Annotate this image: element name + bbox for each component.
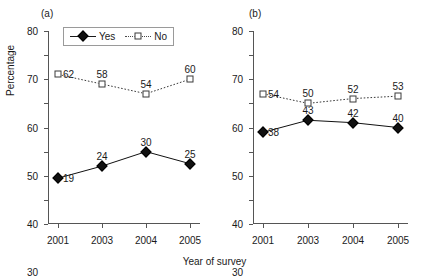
legend-entry-no[interactable]: No: [125, 31, 167, 42]
legend-a: Yes No: [63, 27, 174, 46]
y-tick-label: 50: [232, 170, 243, 181]
panel-a-label: (a): [41, 8, 53, 19]
data-point-label: 53: [392, 81, 403, 92]
y-tick-label: 80: [27, 26, 38, 37]
data-point-marker-unlikely[interactable]: [260, 90, 267, 97]
x-tick-mark: 2005: [398, 224, 399, 228]
y-tick-label: 40: [232, 219, 243, 230]
series-line-yes: [58, 152, 190, 179]
data-point-marker-no[interactable]: [143, 90, 150, 97]
data-point-marker-unlikely[interactable]: [350, 95, 357, 102]
legend-label-yes: Yes: [99, 31, 115, 42]
y-tick-label: 80: [232, 26, 243, 37]
data-point-label: 40: [392, 113, 403, 124]
data-point-label: 52: [347, 84, 358, 95]
plot-area-b: 01020304050607080 2001200320042005 38434…: [253, 31, 408, 224]
x-tick-label: 2003: [91, 235, 113, 246]
figure-two-panel-line-charts: (a) Percentage 01020304050607080 2001200…: [0, 0, 429, 280]
data-point-label: 38: [268, 127, 279, 138]
data-point-marker-unlikely[interactable]: [305, 100, 312, 107]
legend-label-no: No: [154, 31, 167, 42]
data-point-marker-no[interactable]: [55, 71, 62, 78]
x-tick-label: 2004: [135, 235, 157, 246]
x-tick-label: 2005: [387, 235, 409, 246]
data-point-label: 54: [140, 79, 151, 90]
y-axis-title-a: Percentage: [5, 45, 16, 96]
y-tick-mark: 0: [44, 224, 48, 225]
data-point-label: 43: [302, 105, 313, 116]
legend-swatch-filled-diamond-icon: [70, 32, 96, 41]
data-point-label: 25: [184, 149, 195, 160]
y-tick-mark: 0: [249, 224, 253, 225]
data-point-label: 30: [140, 137, 151, 148]
x-axis-title: Year of survey: [0, 256, 429, 267]
data-point-marker-no[interactable]: [99, 81, 106, 88]
series-line-likely: [263, 120, 398, 132]
data-point-label: 58: [96, 69, 107, 80]
y-tick-label: 60: [232, 122, 243, 133]
data-point-marker-unlikely[interactable]: [395, 93, 402, 100]
series-lines-a: [48, 31, 200, 224]
x-tick-label: 2003: [297, 235, 319, 246]
plot-area-a: 01020304050607080 2001200320042005 19243…: [48, 31, 200, 224]
panel-a: (a) Percentage 01020304050607080 2001200…: [0, 0, 215, 280]
x-tick-mark: 2003: [102, 224, 103, 228]
data-point-label: 50: [302, 88, 313, 99]
y-tick-label: 30: [232, 267, 243, 278]
data-point-label: 42: [347, 108, 358, 119]
data-point-label: 24: [96, 151, 107, 162]
legend-swatch-open-square-icon: [125, 32, 151, 41]
x-tick-label: 2001: [47, 235, 69, 246]
y-tick-label: 30: [27, 267, 38, 278]
y-tick-label: 60: [27, 122, 38, 133]
series-line-no: [58, 74, 190, 93]
legend-entry-yes[interactable]: Yes: [70, 31, 115, 42]
x-tick-mark: 2005: [190, 224, 191, 228]
y-tick-label: 70: [232, 74, 243, 85]
data-point-label: 60: [184, 64, 195, 75]
x-tick-label: 2001: [252, 235, 274, 246]
x-tick-mark: 2004: [146, 224, 147, 228]
data-point-marker-no[interactable]: [187, 76, 194, 83]
x-tick-mark: 2001: [263, 224, 264, 228]
x-tick-label: 2004: [342, 235, 364, 246]
x-tick-mark: 2001: [58, 224, 59, 228]
x-tick-mark: 2003: [308, 224, 309, 228]
x-tick-mark: 2004: [353, 224, 354, 228]
data-point-label: 54: [268, 88, 279, 99]
y-tick-label: 70: [27, 74, 38, 85]
x-tick-label: 2005: [179, 235, 201, 246]
y-tick-label: 50: [27, 170, 38, 181]
data-point-label: 62: [63, 69, 74, 80]
series-line-unlikely: [263, 94, 398, 104]
panel-b: (b) 01020304050607080 2001200320042005 3…: [212, 0, 429, 280]
data-point-label: 19: [63, 173, 74, 184]
y-tick-label: 40: [27, 219, 38, 230]
panel-b-label: (b): [249, 8, 261, 19]
